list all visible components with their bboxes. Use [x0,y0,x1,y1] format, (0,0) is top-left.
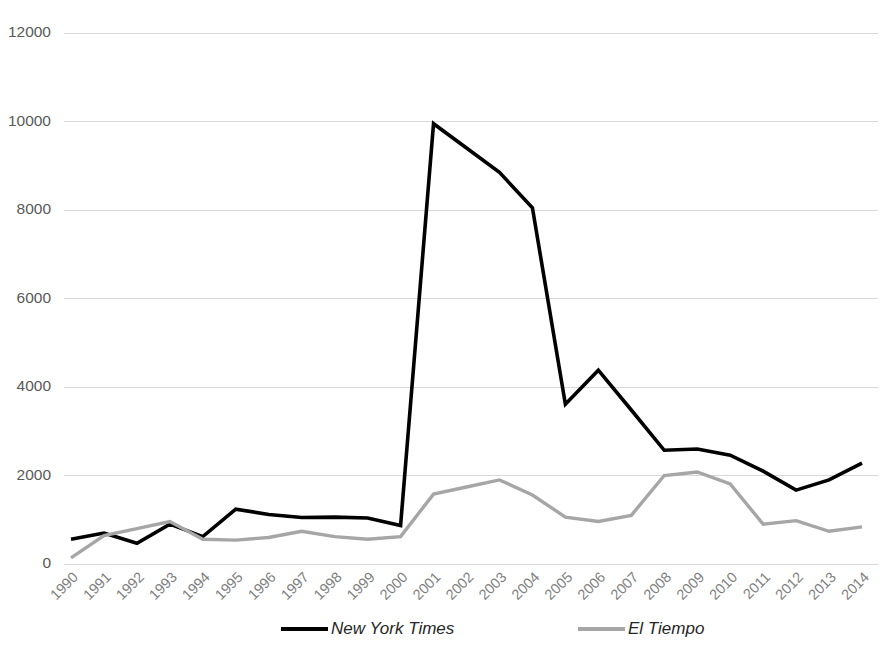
x-axis-tick-label: 2013 [805,569,839,603]
x-axis-tick-label: 2012 [772,569,806,603]
series-line-el-tiempo [71,472,862,558]
legend-label-new-york-times[interactable]: New York Times [331,619,455,638]
x-axis-tick-label: 1994 [179,569,213,603]
y-axis-tick-labels: 020004000600080001000012000 [8,23,51,571]
y-axis-tick-label: 0 [42,554,51,571]
x-axis-tick-label: 2001 [410,569,444,603]
x-axis-tick-label: 2004 [508,569,542,603]
x-axis-tick-labels: 1990199119921993199419951996199719981999… [47,569,872,603]
x-axis-tick-label: 1991 [80,569,114,603]
x-axis-tick-label: 2007 [607,569,641,603]
chart-canvas: 020004000600080001000012000 199019911992… [0,0,884,654]
y-axis-tick-label: 10000 [8,112,51,129]
x-axis-tick-label: 1997 [278,569,312,603]
x-axis-tick-label: 1990 [47,569,81,603]
x-axis-tick-label: 1999 [344,569,378,603]
line-chart: 020004000600080001000012000 199019911992… [0,0,884,654]
y-axis-tick-label: 2000 [17,466,52,483]
series-line-new-york-times [71,124,862,543]
x-axis-tick-label: 2014 [838,569,872,603]
data-series [71,124,862,558]
x-axis-tick-label: 2009 [673,569,707,603]
x-axis-tick-label: 2005 [541,569,575,603]
x-axis-tick-label: 2008 [640,569,674,603]
x-axis-tick-label: 1995 [212,569,246,603]
y-axis-tick-label: 4000 [17,377,52,394]
x-axis-tick-label: 2011 [740,569,773,602]
x-axis-tick-label: 2000 [377,569,411,603]
chart-legend: New York TimesEl Tiempo [281,619,704,638]
x-axis-tick-label: 2003 [475,569,509,603]
x-axis-tick-label: 2002 [442,569,476,603]
legend-label-el-tiempo[interactable]: El Tiempo [628,619,704,638]
y-axis-tick-label: 6000 [17,289,52,306]
x-axis-tick-label: 1996 [245,569,279,603]
x-axis-tick-label: 1993 [146,569,180,603]
x-axis-tick-label: 1998 [311,569,345,603]
y-axis-tick-label: 8000 [17,200,52,217]
x-axis-tick-label: 1992 [113,569,147,603]
x-axis-tick-label: 2006 [574,569,608,603]
y-axis-tick-label: 12000 [8,23,51,40]
x-axis-tick-label: 2010 [706,569,740,603]
